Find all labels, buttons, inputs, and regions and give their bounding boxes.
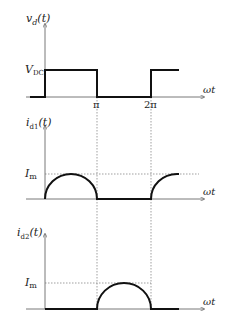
panel-id2: id2(t) Im ωt: [17, 226, 216, 309]
diode2-current: [45, 283, 179, 309]
panel-id1: id1(t) Im ωt: [24, 116, 216, 199]
svg-text:ωt: ωt: [203, 296, 216, 307]
svg-text:id1(t): id1(t): [26, 116, 51, 131]
svg-text:Im: Im: [24, 167, 37, 181]
svg-text:2π: 2π: [144, 99, 157, 110]
square-wave: [30, 70, 179, 97]
svg-text:VDC: VDC: [25, 63, 44, 77]
panel-vd: vd(t) VDC ωt π 2π: [25, 12, 216, 110]
diode1-current: [45, 174, 179, 199]
svg-text:ωt: ωt: [203, 186, 216, 197]
svg-text:π: π: [93, 99, 100, 110]
svg-text:Im: Im: [24, 276, 37, 290]
waveform-diagram: vd(t) VDC ωt π 2π id1(t) Im ωt id2(t) Im…: [0, 0, 228, 327]
svg-text:vd(t): vd(t): [26, 12, 50, 27]
svg-text:ωt: ωt: [203, 84, 216, 95]
svg-text:id2(t): id2(t): [17, 226, 42, 241]
